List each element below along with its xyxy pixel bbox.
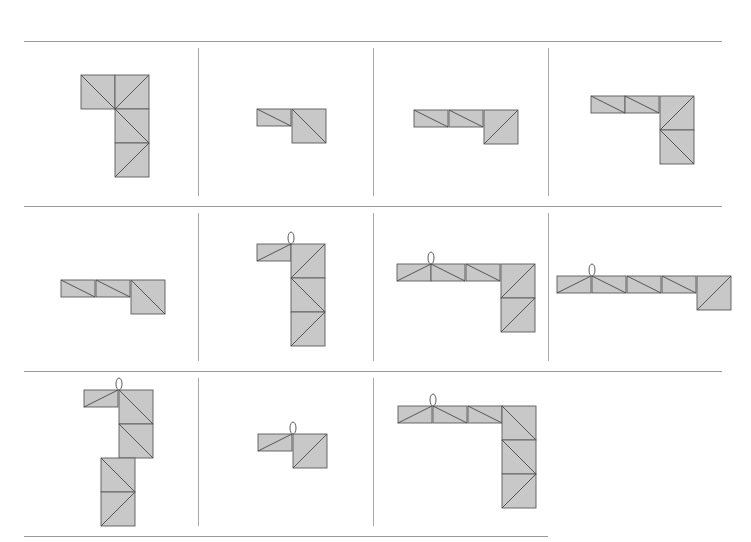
figure-r1c1 bbox=[81, 75, 149, 177]
figure-r1c3 bbox=[414, 110, 518, 144]
figure-r3c2 bbox=[258, 422, 327, 468]
hook-ring-icon bbox=[116, 378, 122, 390]
figure-r3c3 bbox=[398, 394, 536, 508]
figure-r2c3 bbox=[397, 252, 535, 332]
figure-r2c2 bbox=[257, 232, 325, 346]
hook-ring-icon bbox=[290, 422, 296, 434]
figure-r3c1 bbox=[84, 378, 153, 526]
hook-ring-icon bbox=[589, 264, 595, 276]
figure-r1c4 bbox=[591, 96, 694, 164]
hook-ring-icon bbox=[430, 394, 436, 406]
figure-r1c2 bbox=[257, 109, 326, 143]
figure-r2c1 bbox=[61, 280, 165, 314]
hook-ring-icon bbox=[288, 232, 294, 244]
hook-ring-icon bbox=[428, 252, 434, 264]
polyomino-figures bbox=[0, 0, 751, 542]
figure-r2c4 bbox=[557, 264, 731, 310]
